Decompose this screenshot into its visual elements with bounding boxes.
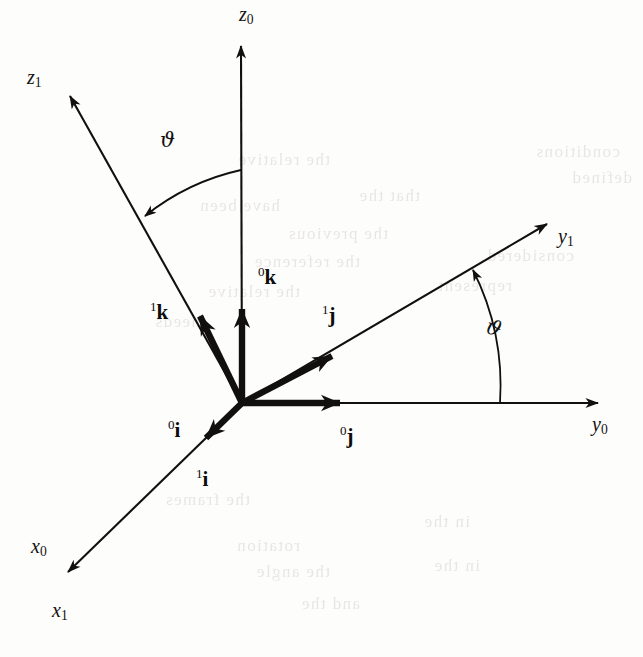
unit-vector-label-0j: 0j xyxy=(340,424,354,447)
unit-vector-label-1k: 1k xyxy=(150,300,168,323)
unit-vector-arrows xyxy=(200,309,340,438)
axis-label-y0: y0 xyxy=(592,414,608,437)
unit-vector-label-1i: 1i xyxy=(196,467,208,490)
rotation-angle-theta-z-arc xyxy=(145,170,241,216)
unit-vector-label-1j: 1j xyxy=(322,303,336,326)
coordinate-frame-diagram: conditionsthe relativedefinedthat thehav… xyxy=(0,0,643,657)
axis-label-x0: x0 xyxy=(31,536,47,559)
unit-vector-label-0k: 0k xyxy=(258,265,276,288)
unit-vector-label-0i: 0i xyxy=(168,418,180,441)
axis-label-x1: x1 xyxy=(52,600,68,623)
axis-label-z1: z1 xyxy=(27,67,42,90)
unit-vector-1k-arrow xyxy=(200,316,242,403)
unit-vector-1j-arrow xyxy=(242,356,332,403)
axis-label-y1: y1 xyxy=(558,226,574,249)
rotation-angle-label-theta-z: ϑ xyxy=(160,130,175,151)
axis-label-z0: z0 xyxy=(239,4,254,27)
unit-vector-0i-1i-arrow xyxy=(206,403,242,438)
angle-arcs xyxy=(145,170,501,403)
z-axis-frame1-line xyxy=(70,96,242,403)
diagram-canvas xyxy=(0,0,643,657)
